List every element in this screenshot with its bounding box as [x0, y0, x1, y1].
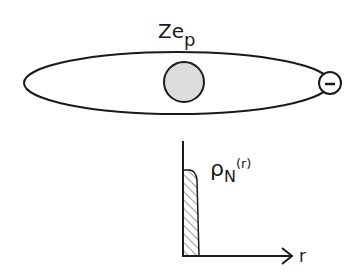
- atom-diagram: Zep r ρN(r): [0, 0, 364, 280]
- density-function-label: ρN(r): [210, 156, 251, 186]
- density-plot: r ρN(r): [182, 141, 306, 266]
- x-axis-label: r: [299, 246, 306, 266]
- electron: [319, 72, 341, 94]
- nucleus: [164, 62, 204, 102]
- charge-label: Zep: [158, 19, 195, 50]
- density-curve: [183, 170, 199, 256]
